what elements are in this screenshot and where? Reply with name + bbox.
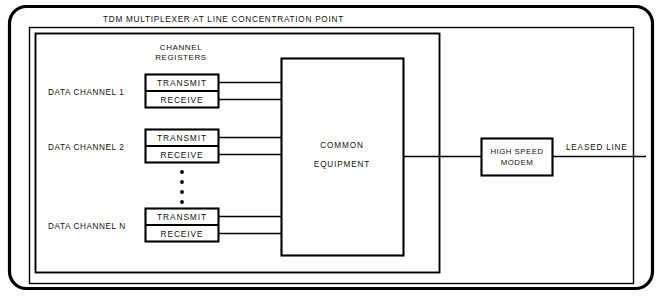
channel-2-label: DATA CHANNEL 2 [48, 143, 125, 152]
common-equipment-label-line2: EQUIPMENT [314, 160, 370, 169]
channel-1-label: DATA CHANNEL 1 [48, 88, 125, 97]
channel-1-transmit-label: TRANSMIT [157, 78, 207, 88]
channel-2-transmit-label: TRANSMIT [157, 133, 207, 143]
leased-line-label: LEASED LINE [566, 143, 628, 152]
modem-label-line1: HIGH SPEED [490, 147, 543, 156]
diagram-canvas: TDM MULTIPLEXER AT LINE CONCENTRATION PO… [0, 0, 665, 296]
channel-n-receive-label: RECEIVE [160, 229, 203, 239]
channel-registers-header-line1: CHANNEL [160, 43, 202, 52]
channel-1-receive-label: RECEIVE [160, 95, 203, 105]
ellipsis-dot [180, 180, 184, 184]
channel-n-transmit-label: TRANSMIT [157, 212, 207, 222]
diagram-title: TDM MULTIPLEXER AT LINE CONCENTRATION PO… [103, 15, 344, 24]
modem-label-line2: MODEM [501, 158, 533, 167]
common-equipment-box [282, 59, 404, 256]
vertical-ellipsis [180, 170, 184, 204]
channel-2-receive-label: RECEIVE [160, 150, 203, 160]
tdm-multiplexer-diagram: TDM MULTIPLEXER AT LINE CONCENTRATION PO… [0, 0, 665, 296]
ellipsis-dot [180, 200, 184, 204]
channel-n-label: DATA CHANNEL N [48, 222, 126, 231]
ellipsis-dot [180, 190, 184, 194]
common-equipment-label-line1: COMMON [320, 141, 363, 150]
ellipsis-dot [180, 170, 184, 174]
channel-registers-header-line2: REGISTERS [155, 53, 207, 62]
high-speed-modem-box [482, 139, 553, 176]
